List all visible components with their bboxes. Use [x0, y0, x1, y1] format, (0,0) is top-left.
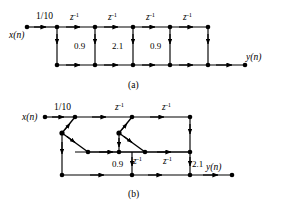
node-butterfly-apex-b-1 [59, 130, 64, 135]
delay-label-b-top-1: z-1 [114, 101, 124, 113]
node-input-b [43, 115, 48, 120]
node-bottom-a-4 [168, 63, 173, 68]
delay-label-a-4: z-1 [182, 11, 192, 23]
node-top-a-2 [93, 25, 98, 30]
delay-label-a-3: z-1 [145, 11, 155, 23]
diagram-b-butterfly-2 [119, 117, 145, 152]
node-butterfly-apex-b-2 [116, 130, 121, 135]
node-top-b-1 [73, 115, 78, 120]
node-bottom-b-1 [60, 173, 65, 178]
node-top-a-4 [168, 25, 173, 30]
node-bottom-a-5 [206, 63, 211, 68]
node-bottom-a-2 [93, 63, 98, 68]
diagram-a-gain-label: 1/10 [36, 11, 53, 21]
diagram-a-output-label: y(n) [245, 52, 261, 63]
node-output-b [230, 173, 235, 178]
diagram-b-top-delay-labels: z-1 z-1 [114, 101, 171, 113]
signal-flow-graph-figure: 1/10 x(n) y(n) z-1 z-1 z-1 z-1 0.9 [0, 0, 291, 209]
node-top-a-5 [206, 25, 211, 30]
node-mid-b-4 [188, 150, 193, 155]
coefficient-label-b-1: 0.9 [112, 159, 124, 169]
node-mid-b-3 [117, 150, 122, 155]
node-top-b-2 [130, 115, 135, 120]
node-mid-b-2 [143, 150, 148, 155]
node-mid-b-1 [86, 150, 91, 155]
diagram-a-input-label: x(n) [8, 30, 24, 41]
delay-label-b-mid-2: z-1 [162, 155, 172, 167]
coefficient-label-a-3: 0.9 [150, 41, 162, 51]
diagram-a: 1/10 x(n) y(n) z-1 z-1 z-1 z-1 0.9 [8, 11, 261, 92]
node-output-a [243, 63, 248, 68]
diagram-b-vertical-connectors [132, 117, 190, 175]
diagram-b: 1/10 x(n) y(n) z-1 z-1 z-1 z-1 [21, 101, 234, 201]
diagram-a-delay-labels: z-1 z-1 z-1 z-1 [69, 11, 192, 23]
coefficient-label-a-2: 2.1 [112, 41, 123, 51]
coefficient-label-a-1: 0.9 [74, 41, 86, 51]
caption-a: (a) [128, 80, 139, 91]
node-bottom-b-2 [130, 173, 135, 178]
delay-label-b-top-2: z-1 [161, 101, 171, 113]
diagram-b-gain-label: 1/10 [54, 102, 71, 112]
diagram-a-nodes [25, 25, 248, 68]
caption-b: (b) [128, 189, 139, 200]
delay-label-b-mid-1: z-1 [132, 155, 142, 167]
delay-label-a-2: z-1 [107, 11, 117, 23]
node-top-a-3 [131, 25, 136, 30]
node-top-a-1 [55, 25, 60, 30]
diagram-a-coefficient-labels: 0.9 2.1 0.9 [74, 41, 162, 51]
node-input-a [25, 25, 30, 30]
node-bottom-b-3 [188, 173, 193, 178]
node-top-b-3 [188, 115, 193, 120]
delay-label-a-1: z-1 [69, 11, 79, 23]
diagram-b-middle-delay-labels: z-1 z-1 [132, 155, 172, 167]
node-bottom-a-1 [55, 63, 60, 68]
diagram-b-output-label: y(n) [205, 162, 221, 173]
diagram-b-butterfly-1 [62, 117, 88, 152]
diagram-b-input-label: x(n) [21, 112, 37, 123]
figure-container: 1/10 x(n) y(n) z-1 z-1 z-1 z-1 0.9 [0, 0, 291, 209]
node-bottom-a-3 [131, 63, 136, 68]
coefficient-label-b-2: 2.1 [192, 159, 203, 169]
